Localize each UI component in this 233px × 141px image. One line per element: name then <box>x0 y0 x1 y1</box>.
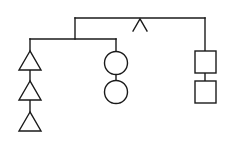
circle-shape <box>105 81 128 104</box>
square-shape <box>195 81 216 103</box>
top-beam <box>75 18 205 51</box>
fulcrum-icon <box>133 19 147 31</box>
mobile-balance-diagram <box>0 0 233 141</box>
square-group <box>195 51 216 103</box>
circle-shape <box>105 52 128 75</box>
circle-group <box>105 52 128 104</box>
triangle-shape <box>19 112 41 131</box>
triangle-shape <box>19 81 41 100</box>
triangle-group <box>19 51 41 131</box>
square-shape <box>195 51 216 73</box>
triangle-shape <box>19 51 41 70</box>
sub-beam <box>30 39 116 51</box>
